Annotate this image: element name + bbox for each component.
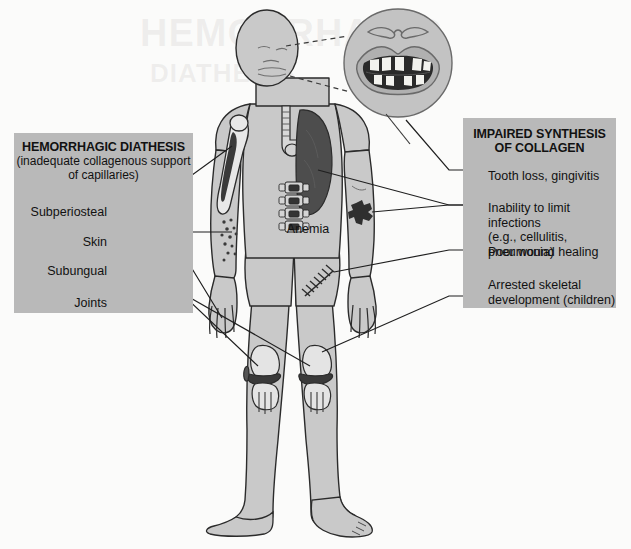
right-hand — [348, 276, 376, 333]
scurvy-diagram-figure: HEMORRHAGIC DIATHESIS — [0, 0, 631, 549]
head — [236, 10, 298, 86]
left-panel-hemorrhagic-diathesis: HEMORRHAGIC DIATHESIS (inadequate collag… — [14, 133, 193, 313]
left-hand — [209, 276, 237, 333]
left-item-subperiosteal[interactable]: Subperiosteal — [31, 205, 107, 220]
mouth-inset-circle — [344, 9, 452, 117]
right-item-wound-healing[interactable]: Poor wound healing — [488, 245, 599, 260]
left-leg — [230, 300, 289, 528]
inset-stem-line — [386, 114, 410, 144]
leader-infections-skin — [372, 205, 470, 212]
left-item-joints[interactable]: Joints — [74, 296, 107, 311]
right-item-skeletal-development[interactable]: Arrested skeletal development (children) — [488, 278, 615, 307]
leader-skeletal — [322, 296, 470, 352]
left-panel-subtitle: (inadequate collagenous support of capil… — [14, 154, 193, 182]
knee-joints — [244, 345, 333, 414]
left-panel-title: HEMORRHAGIC DIATHESIS — [14, 133, 193, 154]
right-panel-title: IMPAIRED SYNTHESIS OF COLLAGEN — [463, 118, 616, 155]
right-leg — [296, 300, 360, 528]
feet — [207, 497, 373, 537]
right-panel-impaired-collagen-synthesis: IMPAIRED SYNTHESIS OF COLLAGEN Tooth los… — [463, 118, 616, 308]
left-item-subungual[interactable]: Subungual — [47, 264, 107, 279]
left-item-skin[interactable]: Skin — [83, 235, 107, 250]
anemia-label: Anemia — [272, 222, 344, 236]
leader-tooth-loss — [406, 120, 470, 170]
right-item-tooth-loss[interactable]: Tooth loss, gingivitis — [488, 169, 599, 184]
